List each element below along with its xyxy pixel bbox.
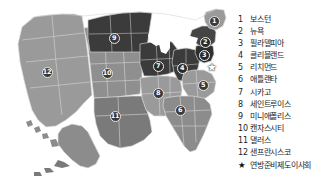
legend-number: 11 xyxy=(238,136,250,145)
map-marker-2[interactable]: 2 xyxy=(200,37,211,48)
legend-number: 3 xyxy=(238,39,250,48)
legend-item-9: 9 미니애폴리스 xyxy=(238,110,327,122)
map-marker-4[interactable]: 4 xyxy=(177,63,188,74)
legend-label: 시카고 xyxy=(250,86,270,97)
legend-label: 뉴욕 xyxy=(250,25,264,36)
federal-reserve-districts-figure: 1 2 3 4 5 6 7 8 9 10 11 12 ★ 1 보스턴 2 뉴욕 … xyxy=(0,0,327,190)
legend-number: 7 xyxy=(238,88,250,97)
legend-number: 6 xyxy=(238,75,250,84)
legend-item-3: 3 필라델피아 xyxy=(238,37,327,49)
map-marker-5[interactable]: 5 xyxy=(198,80,209,91)
legend-item-12: 12 샌프란시스코 xyxy=(238,146,327,158)
legend-item-1: 1 보스턴 xyxy=(238,13,327,25)
star-icon: ★ xyxy=(238,160,250,170)
legend-item-10: 10 캔자스시티 xyxy=(238,122,327,134)
map-marker-9[interactable]: 9 xyxy=(109,33,120,44)
legend-label: 리치먼드 xyxy=(250,61,277,72)
map-marker-7[interactable]: 7 xyxy=(153,61,164,72)
legend-label: 보스턴 xyxy=(250,13,270,24)
legend-label: 샌프란시스코 xyxy=(250,146,291,157)
legend-number: 2 xyxy=(238,27,250,36)
map-legend: 1 보스턴 2 뉴욕 3 필라델피아 4 클리블랜드 5 리치먼드 6 애틀랜타… xyxy=(238,13,327,171)
legend-item-7: 7 시카고 xyxy=(238,86,327,98)
legend-item-2: 2 뉴욕 xyxy=(238,25,327,37)
legend-number: 9 xyxy=(238,112,250,121)
legend-item-6: 6 애틀랜타 xyxy=(238,73,327,85)
legend-label: 애틀랜타 xyxy=(250,73,277,84)
legend-label: 클리블랜드 xyxy=(250,49,284,60)
legend-number: 5 xyxy=(238,63,250,72)
legend-number: 1 xyxy=(238,15,250,24)
map-marker-1[interactable]: 1 xyxy=(209,16,220,27)
map-marker-6[interactable]: 6 xyxy=(175,105,186,116)
us-district-map: 1 2 3 4 5 6 7 8 9 10 11 12 ★ xyxy=(0,0,232,190)
legend-number: 10 xyxy=(238,124,250,133)
federal-reserve-board-star-icon[interactable]: ★ xyxy=(207,62,218,74)
map-marker-12[interactable]: 12 xyxy=(42,67,53,78)
map-marker-11[interactable]: 11 xyxy=(110,111,121,122)
legend-label: 필라델피아 xyxy=(250,37,284,48)
legend-item-5: 5 리치먼드 xyxy=(238,61,327,73)
legend-item-4: 4 클리블랜드 xyxy=(238,49,327,61)
legend-item-11: 11 댈러스 xyxy=(238,134,327,146)
legend-number: 12 xyxy=(238,148,250,157)
legend-item-8: 8 세인트루이스 xyxy=(238,98,327,110)
legend-label: 캔자스시티 xyxy=(250,122,284,133)
map-marker-3[interactable]: 3 xyxy=(199,50,210,61)
map-marker-10[interactable]: 10 xyxy=(102,68,113,79)
map-marker-8[interactable]: 8 xyxy=(153,88,164,99)
legend-number: 4 xyxy=(238,51,250,60)
legend-label: 미니애폴리스 xyxy=(250,110,291,121)
legend-label: 연방준비제도이사회 xyxy=(250,159,311,170)
legend-label: 댈러스 xyxy=(250,134,270,145)
legend-number: 8 xyxy=(238,100,250,109)
legend-item-board: ★ 연방준비제도이사회 xyxy=(238,159,327,171)
us-map-graphic xyxy=(0,0,232,190)
legend-label: 세인트루이스 xyxy=(250,98,291,109)
